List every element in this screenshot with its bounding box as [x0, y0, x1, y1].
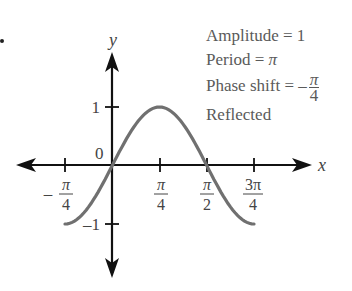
svg-text:2: 2	[203, 196, 211, 213]
graph-properties: Amplitude = 1 Period = π Phase shift = –…	[206, 24, 319, 127]
svg-text:4: 4	[62, 196, 70, 213]
x-tick-label-pi-over-2: π 2	[200, 176, 214, 213]
x-tick-label-pi-over-4: π 4	[154, 176, 168, 213]
y-axis-label: y	[107, 30, 117, 50]
amplitude-text: Amplitude = 1	[206, 24, 319, 48]
svg-text:π: π	[62, 176, 71, 193]
reflected-text: Reflected	[206, 103, 319, 127]
svg-text:π: π	[157, 176, 166, 193]
svg-text:4: 4	[249, 196, 257, 213]
phase-shift-text: Phase shift = –π4	[206, 72, 319, 103]
svg-text:4: 4	[157, 196, 165, 213]
x-tick-label-3pi-over-4: 3π 4	[243, 176, 263, 213]
y-tick-label-1: 1	[92, 98, 101, 117]
phase-fraction: π4	[309, 72, 320, 103]
svg-text:–: –	[43, 184, 53, 203]
x-axis-label: x	[317, 155, 326, 175]
svg-text:3π: 3π	[245, 176, 261, 193]
svg-text:π: π	[203, 176, 212, 193]
y-tick-label-neg1: –1	[82, 215, 100, 234]
origin-label: 0	[95, 144, 104, 163]
x-tick-label-neg-pi-over-4: – π 4	[43, 176, 73, 213]
period-text: Period = π	[206, 48, 319, 72]
